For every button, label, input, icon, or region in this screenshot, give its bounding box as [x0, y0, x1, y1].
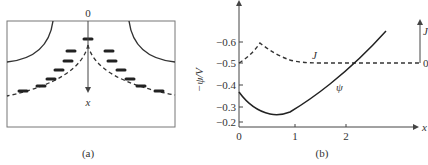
ytick-0.5: −0.5 — [216, 57, 236, 69]
j-curve — [239, 43, 420, 63]
xtick-1: 1 — [292, 130, 298, 142]
ytick-0.2: −0.2 — [216, 116, 236, 128]
x-axis-label: x — [421, 121, 427, 133]
ytick-0.3: −0.3 — [216, 101, 236, 113]
xtick-2: 2 — [343, 130, 349, 142]
x-axis-label: x — [85, 96, 91, 108]
origin-label: 0 — [85, 7, 91, 19]
panel-a-frame — [7, 21, 175, 127]
left-electrode-arc — [7, 21, 53, 62]
xtick-0: 0 — [236, 130, 242, 142]
ion-marks — [19, 39, 163, 91]
y-ticks — [239, 42, 243, 122]
right-sheath-curve — [88, 45, 175, 95]
left-sheath-curve — [7, 45, 88, 96]
panel-b: x −0.6 −0.5 −0.4 −0.3 −0.2 −ψ/V 0 1 2 J … — [193, 3, 428, 160]
right-axis-zero: 0 — [423, 57, 428, 69]
right-axis-label: J — [423, 25, 428, 37]
panel-a: 0 x (a) — [7, 7, 175, 160]
psi-curve-label: ψ — [336, 81, 343, 93]
right-electrode-arc — [129, 21, 175, 62]
ytick-0.4: −0.4 — [216, 79, 236, 91]
caption-b: (b) — [316, 147, 329, 160]
y-axis-label: −ψ/V — [193, 67, 205, 92]
caption-a: (a) — [82, 147, 95, 160]
ytick-0.6: −0.6 — [216, 36, 236, 48]
figure: 0 x (a) x −0.6 −0.5 −0.4 −0.3 −0.2 −ψ/V … — [0, 0, 428, 165]
j-curve-label: J — [312, 49, 318, 61]
